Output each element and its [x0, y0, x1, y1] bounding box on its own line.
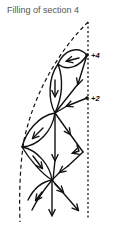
arrow-top-lens — [67, 58, 79, 61]
top-lens — [58, 50, 87, 68]
left-dashed-boundary — [20, 22, 88, 222]
arrow-middle-left-lens — [33, 128, 43, 138]
edge-plus4-middle — [55, 84, 78, 113]
arrow-middle-right — [55, 113, 70, 134]
left-lens — [50, 64, 61, 113]
edge-right-bottom — [68, 152, 83, 166]
lower-lens — [22, 147, 52, 180]
label-plus4: +4 — [91, 51, 100, 60]
arrow-right-bottom — [60, 166, 68, 172]
arrow-bottom-mid-right — [55, 184, 63, 192]
label-plus2: +2 — [91, 94, 100, 103]
flow-sketch: +4 +2 — [0, 0, 115, 230]
middle-left-lens — [22, 113, 55, 147]
arrow-plus4-down — [78, 55, 87, 84]
edge-middle-right — [70, 134, 83, 152]
arrow-plus2-middle — [67, 98, 87, 106]
hook-arrow — [73, 145, 79, 153]
